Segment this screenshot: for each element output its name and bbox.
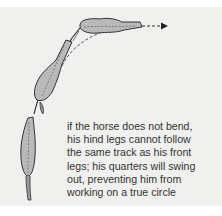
caption-line: working on a true circle xyxy=(67,186,217,199)
caption-line: legs; his quarters will swing xyxy=(67,160,217,173)
horse-hind-icon xyxy=(21,117,35,200)
horse-legs-icon xyxy=(34,100,43,114)
caption-line: out, preventing him from xyxy=(67,173,217,186)
caption-line: the same track as his front xyxy=(67,146,217,159)
caption-line: if the horse does not bend, xyxy=(67,120,217,133)
caption-line: his hind legs cannot follow xyxy=(67,133,217,146)
horse-middle-icon xyxy=(34,40,72,101)
direction-arrow-icon xyxy=(142,23,168,30)
horse-front-icon xyxy=(69,18,142,43)
caption-text: if the horse does not bend, his hind leg… xyxy=(67,120,217,199)
